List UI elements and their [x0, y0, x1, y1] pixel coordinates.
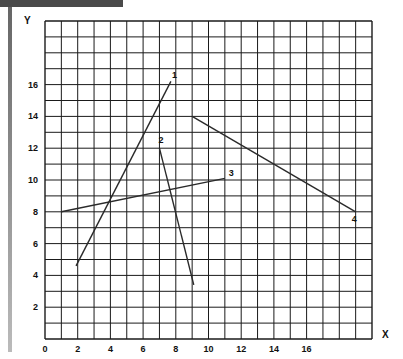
series-label-1: 1 — [172, 70, 177, 80]
series-lines: 1234 — [61, 70, 356, 285]
y-axis-label: Y — [24, 15, 31, 26]
x-tick-label: 6 — [141, 344, 146, 354]
y-tick-label: 2 — [33, 302, 38, 312]
x-tick-label: 14 — [269, 344, 279, 354]
tick-labels: 0246810121416246810121416 — [28, 80, 312, 354]
x-tick-label: 8 — [173, 344, 178, 354]
grid — [45, 21, 372, 339]
y-tick-label: 16 — [28, 80, 38, 90]
line-chart: 0246810121416246810121416 1234 X Y — [0, 0, 403, 359]
x-tick-label: 0 — [42, 344, 47, 354]
x-tick-label: 12 — [236, 344, 246, 354]
x-tick-label: 16 — [302, 344, 312, 354]
y-tick-label: 10 — [28, 175, 38, 185]
series-label-4: 4 — [352, 214, 357, 224]
x-tick-label: 4 — [108, 344, 113, 354]
y-tick-label: 4 — [33, 270, 38, 280]
x-axis-label: X — [382, 329, 389, 340]
series-label-3: 3 — [229, 168, 234, 178]
y-tick-label: 12 — [28, 143, 38, 153]
series-line-1 — [76, 81, 171, 265]
y-tick-label: 6 — [33, 239, 38, 249]
series-line-2 — [159, 148, 193, 285]
series-label-2: 2 — [158, 135, 163, 145]
y-tick-label: 8 — [33, 207, 38, 217]
x-tick-label: 10 — [203, 344, 213, 354]
x-tick-label: 2 — [75, 344, 80, 354]
y-tick-label: 14 — [28, 111, 38, 121]
